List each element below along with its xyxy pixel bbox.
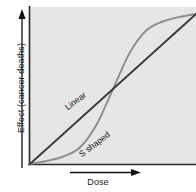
chart-canvas [0,0,196,192]
dose-response-figure: Effect (cancer deaths) Dose Linear S sha… [0,0,196,192]
y-axis-label: Effect (cancer deaths) [16,13,26,163]
x-axis-arrow [70,169,141,176]
x-axis-label: Dose [0,177,196,187]
